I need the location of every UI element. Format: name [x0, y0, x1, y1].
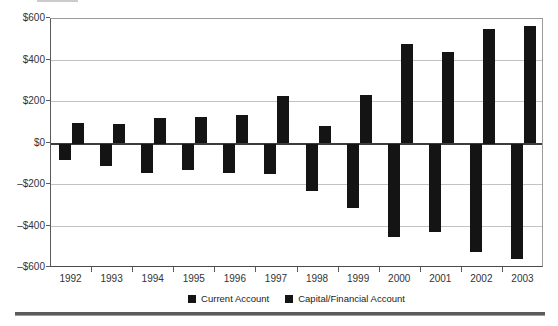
bar-current-account-2002 — [470, 144, 482, 253]
bar-current-account-1995 — [182, 144, 194, 171]
x-axis-label-1999: 1999 — [338, 273, 378, 284]
bar-current-account-2001 — [429, 144, 441, 232]
x-axis-tick-1 — [91, 267, 92, 272]
x-axis-label-1997: 1997 — [256, 273, 296, 284]
bar-current-account-1998 — [306, 144, 318, 192]
bar-current-account-1994 — [141, 144, 153, 173]
y-axis-label--400: –$400 — [0, 221, 45, 231]
bar-current-account-2000 — [388, 144, 400, 237]
legend-item-capital-financial-account: Capital/Financial Account — [285, 293, 405, 304]
bar-capital-financial-account-1999 — [360, 95, 372, 144]
bar-current-account-1996 — [223, 144, 235, 173]
x-axis-tick-2 — [132, 267, 133, 272]
x-axis-tick-3 — [173, 267, 174, 272]
x-axis-label-2000: 2000 — [379, 273, 419, 284]
bar-capital-financial-account-2001 — [442, 52, 454, 143]
x-axis-tick-11 — [502, 267, 503, 272]
bar-current-account-1999 — [347, 144, 359, 208]
x-axis-tick-5 — [255, 267, 256, 272]
x-axis-tick-6 — [297, 267, 298, 272]
y-axis-label-400: $400 — [0, 55, 45, 65]
y-axis-label--600: –$600 — [0, 262, 45, 272]
x-axis-tick-9 — [420, 267, 421, 272]
x-axis-label-2001: 2001 — [420, 273, 460, 284]
x-axis-label-1998: 1998 — [297, 273, 337, 284]
chart-legend: Current Account Capital/Financial Accoun… — [50, 293, 543, 304]
current-account-swatch-icon — [188, 295, 196, 303]
y-axis-label--200: –$200 — [0, 179, 45, 189]
bar-capital-financial-account-2003 — [524, 26, 536, 143]
y-axis-label-0: $0 — [0, 138, 45, 148]
cropped-text-artifact — [37, 0, 78, 2]
gridline-400 — [51, 60, 542, 61]
x-axis-label-1992: 1992 — [51, 273, 91, 284]
x-axis-tick-4 — [214, 267, 215, 272]
bar-current-account-1997 — [264, 144, 276, 174]
legend-item-current-account: Current Account — [188, 293, 269, 304]
gridline-200 — [51, 101, 542, 102]
y-axis-label-200: $200 — [0, 96, 45, 106]
x-axis-tick-7 — [338, 267, 339, 272]
bar-current-account-2003 — [511, 144, 523, 259]
bar-capital-financial-account-1996 — [236, 115, 248, 143]
bar-capital-financial-account-1997 — [277, 96, 289, 144]
x-axis-tick-8 — [379, 267, 380, 272]
x-axis-label-1996: 1996 — [215, 273, 255, 284]
gridline--400 — [51, 226, 542, 227]
bar-current-account-1992 — [59, 144, 71, 161]
bottom-divider — [15, 312, 545, 316]
y-axis-label-600: $600 — [0, 13, 45, 23]
bar-capital-financial-account-1993 — [113, 124, 125, 144]
bar-current-account-1993 — [100, 144, 112, 167]
x-axis-label-1993: 1993 — [92, 273, 132, 284]
plot-area — [50, 18, 543, 267]
gridline--200 — [51, 184, 542, 185]
balance-of-payments-chart: $600$400$200$0–$200–$400–$600 1992199319… — [0, 0, 558, 326]
x-axis-label-1994: 1994 — [133, 273, 173, 284]
x-axis-label-1995: 1995 — [174, 273, 214, 284]
bar-capital-financial-account-2000 — [401, 44, 413, 144]
x-axis-label-2002: 2002 — [461, 273, 501, 284]
bar-capital-financial-account-2002 — [483, 29, 495, 143]
capital-financial-account-swatch-icon — [285, 295, 293, 303]
x-axis-tick-10 — [461, 267, 462, 272]
x-axis-label-2003: 2003 — [502, 273, 542, 284]
bar-capital-financial-account-1992 — [72, 123, 84, 144]
bar-capital-financial-account-1998 — [319, 126, 331, 144]
legend-label-capital-financial-account: Capital/Financial Account — [298, 293, 405, 304]
legend-label-current-account: Current Account — [201, 293, 269, 304]
bar-capital-financial-account-1994 — [154, 118, 166, 144]
bar-capital-financial-account-1995 — [195, 117, 207, 144]
